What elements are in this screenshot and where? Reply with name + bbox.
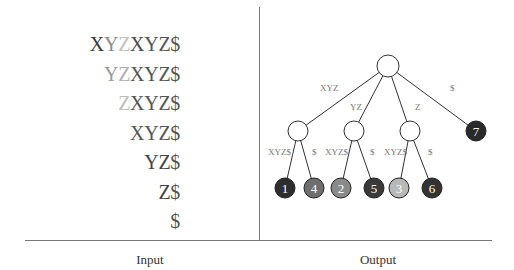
leaf-label: 3 (396, 181, 403, 196)
edge-label: XYZ$ (325, 147, 348, 157)
leaf-label: 2 (338, 181, 345, 196)
edge-label: Z (415, 102, 421, 112)
leaf-label: 6 (429, 181, 436, 196)
edge-label: XYZ$ (268, 147, 291, 157)
internal-node (288, 121, 308, 141)
leaf-label: 7 (473, 124, 480, 139)
leaf-label: 5 (371, 181, 378, 196)
edge-label: YZ (350, 102, 362, 112)
input-caption: Input (90, 252, 210, 268)
edge-label: XYZ$ (384, 147, 407, 157)
tree-edge (298, 66, 388, 131)
edge-label: $ (450, 83, 455, 93)
tree-edge (388, 66, 476, 131)
suffix-tree-diagram: XYZYZZXYZ$$XYZ$$XYZ$$$1425367 (0, 0, 514, 270)
edge-label: $ (428, 147, 433, 157)
internal-node (400, 121, 420, 141)
edge-label: $ (312, 147, 317, 157)
edge-label: XYZ (320, 83, 339, 93)
leaf-label: 4 (311, 181, 318, 196)
edge-label: $ (370, 147, 375, 157)
leaf-label: 1 (282, 181, 289, 196)
root-node (377, 55, 399, 77)
internal-node (344, 121, 364, 141)
output-caption: Output (318, 252, 438, 268)
